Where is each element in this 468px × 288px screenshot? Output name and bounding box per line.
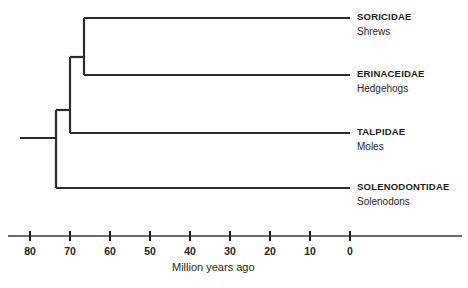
axis-tick-label-10: 10	[290, 245, 330, 257]
tip-family-soricidae: SORICIDAE	[357, 11, 412, 23]
tip-family-erinaceidae: ERINACEIDAE	[357, 68, 425, 80]
tip-common-moles: Moles	[357, 140, 405, 153]
axis-tick-label-40: 40	[170, 245, 210, 257]
axis-tick-label-0: 0	[330, 245, 370, 257]
axis-title: Million years ago	[172, 261, 255, 273]
axis-tick-label-30: 30	[210, 245, 250, 257]
phylogenetic-tree-figure: SORICIDAE Shrews ERINACEIDAE Hedgehogs T…	[0, 0, 468, 288]
axis-tick-label-20: 20	[250, 245, 290, 257]
tip-family-solenodontidae: SOLENODONTIDAE	[357, 181, 450, 193]
tip-label-talpidae: TALPIDAE Moles	[357, 126, 405, 153]
axis-tick-label-50: 50	[130, 245, 170, 257]
axis-tick-label-70: 70	[50, 245, 90, 257]
tip-common-hedgehogs: Hedgehogs	[357, 82, 425, 95]
tip-common-solenodons: Solenodons	[357, 195, 450, 208]
axis-tick-label-60: 60	[90, 245, 130, 257]
time-axis	[8, 231, 462, 241]
tip-label-erinaceidae: ERINACEIDAE Hedgehogs	[357, 68, 425, 95]
axis-tick-label-80: 80	[10, 245, 50, 257]
tip-common-shrews: Shrews	[357, 25, 412, 38]
tip-label-soricidae: SORICIDAE Shrews	[357, 11, 412, 38]
tip-family-talpidae: TALPIDAE	[357, 126, 405, 138]
tip-label-solenodontidae: SOLENODONTIDAE Solenodons	[357, 181, 450, 208]
